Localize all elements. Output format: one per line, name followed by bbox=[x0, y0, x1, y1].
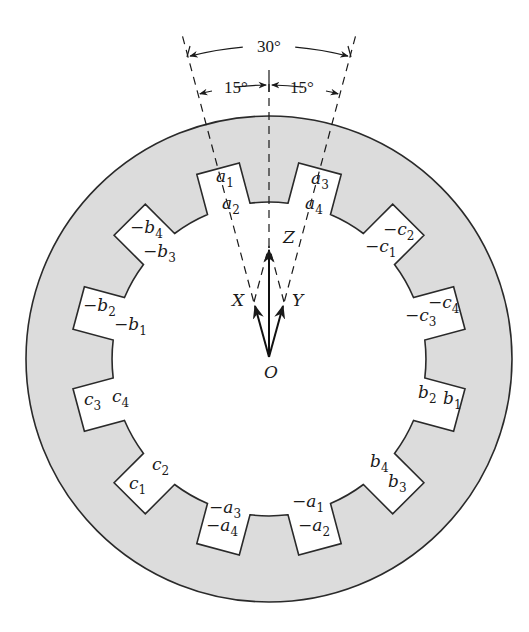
x-to-z-dashed-line bbox=[254, 246, 269, 302]
arc-30deg-right bbox=[295, 47, 348, 56]
slot-conductor-label: a2 bbox=[222, 193, 240, 217]
label-30deg: 30° bbox=[257, 37, 281, 56]
label-x: X bbox=[230, 290, 245, 310]
vector-y bbox=[269, 306, 283, 357]
y-to-z-dashed-line bbox=[269, 246, 284, 302]
slot-conductor-label: −a2 bbox=[298, 515, 330, 539]
label-15deg-left: 15° bbox=[224, 78, 248, 97]
label-15deg-right: 15° bbox=[290, 78, 314, 97]
slot-labels: a1a2a3a4−c2−c1−c4−c3b2b1b4b3−a1−a2−a3−a4… bbox=[83, 166, 462, 539]
slot-conductor-label: a1 bbox=[216, 166, 234, 190]
slot-conductor-label: c3 bbox=[84, 389, 101, 413]
slot-conductor-label: c1 bbox=[129, 473, 146, 497]
phasors bbox=[255, 250, 283, 357]
slot-conductor-label: −a1 bbox=[292, 491, 324, 515]
slot-conductor-label: −c1 bbox=[365, 236, 396, 260]
label-o: O bbox=[264, 362, 278, 382]
slot-conductor-label: −b4 bbox=[130, 217, 163, 241]
slot-conductor-label: −b2 bbox=[83, 295, 116, 319]
label-y: Y bbox=[292, 290, 305, 310]
label-z: Z bbox=[282, 227, 296, 247]
slot-conductor-label: b3 bbox=[388, 471, 407, 495]
tick-mark bbox=[187, 46, 190, 57]
slot-conductor-label: b1 bbox=[443, 388, 462, 412]
slot-conductor-label: a3 bbox=[311, 168, 329, 192]
slot-conductor-label: b4 bbox=[370, 451, 389, 475]
slot-conductor-label: −b1 bbox=[114, 314, 147, 338]
tick-mark bbox=[348, 46, 351, 57]
slot-conductor-label: −b3 bbox=[143, 241, 176, 265]
stator-diagram: 30° 15° 15° Z X Y O a1a2a3a4−c2−c1−c4−c3… bbox=[0, 0, 529, 632]
slot-conductor-label: −c4 bbox=[428, 292, 460, 316]
slot-conductor-label: b2 bbox=[418, 382, 437, 406]
slot-conductor-label: c2 bbox=[152, 454, 169, 478]
arc-30deg-left bbox=[190, 47, 243, 56]
vector-x bbox=[255, 306, 269, 357]
slot-conductor-label: c4 bbox=[112, 386, 130, 410]
